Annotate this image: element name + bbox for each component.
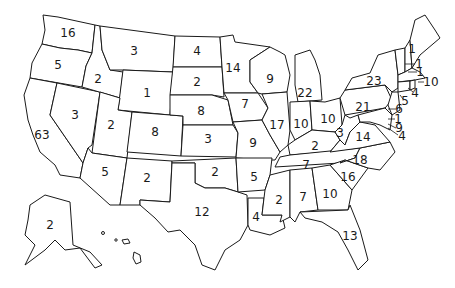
state-hi-island xyxy=(115,239,117,241)
state-label-nm: 2 xyxy=(143,172,151,184)
state-label-fl: 13 xyxy=(342,230,357,242)
state-label-tn: 7 xyxy=(302,159,310,171)
state-label-sd: 2 xyxy=(193,76,201,88)
state-label-ar: 5 xyxy=(250,171,258,183)
state-label-tx: 12 xyxy=(194,206,209,218)
state-label-wi: 9 xyxy=(266,73,274,85)
state-label-co: 8 xyxy=(151,126,159,138)
state-label-al: 7 xyxy=(299,191,307,203)
state-hi-island xyxy=(102,232,105,235)
state-label-mo: 9 xyxy=(249,137,257,149)
state-label-mt: 3 xyxy=(130,45,138,57)
state-label-nc: 18 xyxy=(352,154,367,166)
state-label-ok: 2 xyxy=(211,166,219,178)
state-label-or: 5 xyxy=(54,59,62,71)
state-label-ks: 3 xyxy=(204,133,212,145)
state-label-sc: 16 xyxy=(340,171,355,183)
state-label-ma: 10 xyxy=(423,76,438,88)
state-label-il: 17 xyxy=(269,119,284,131)
state-ct xyxy=(398,81,410,92)
state-label-dc: 4 xyxy=(398,130,406,142)
state-ak xyxy=(25,195,102,268)
state-label-ne: 8 xyxy=(197,105,205,117)
state-label-mn: 14 xyxy=(225,62,240,74)
state-label-ny: 23 xyxy=(366,75,381,87)
state-label-az: 5 xyxy=(101,166,109,178)
state-label-ga: 10 xyxy=(322,188,337,200)
state-label-va: 14 xyxy=(355,131,370,143)
state-label-in: 10 xyxy=(293,118,308,130)
state-label-ut: 2 xyxy=(107,119,115,131)
state-label-ak: 2 xyxy=(46,219,54,231)
state-label-mi: 22 xyxy=(297,87,312,99)
state-label-ky: 2 xyxy=(311,140,319,152)
state-fl xyxy=(300,205,368,270)
state-label-wv: 3 xyxy=(336,127,344,139)
state-hi-island xyxy=(133,252,141,264)
us-map-outline xyxy=(0,0,455,288)
state-label-ri: 4 xyxy=(411,87,419,99)
state-label-id: 2 xyxy=(94,73,102,85)
state-label-wa: 16 xyxy=(60,27,75,39)
state-label-la: 4 xyxy=(252,211,260,223)
state-label-nd: 4 xyxy=(193,45,201,57)
state-label-ca: 63 xyxy=(34,129,49,141)
state-label-pa: 21 xyxy=(355,101,370,113)
state-label-oh: 10 xyxy=(320,113,335,125)
state-label-ms: 2 xyxy=(275,194,283,206)
state-label-wy: 1 xyxy=(143,87,151,99)
state-label-nv: 3 xyxy=(71,109,79,121)
state-label-me: 1 xyxy=(408,43,416,55)
state-label-ia: 7 xyxy=(241,98,249,110)
state-hi-island xyxy=(122,239,130,244)
